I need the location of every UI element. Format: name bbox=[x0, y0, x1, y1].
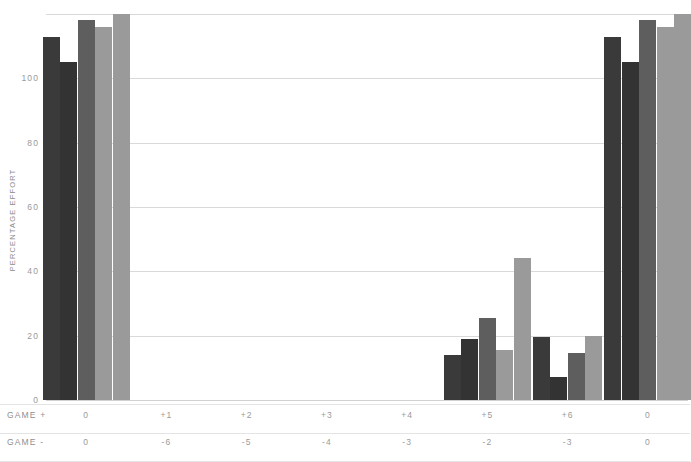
bar bbox=[113, 14, 130, 400]
x-axis-tick-label: 0 bbox=[83, 410, 89, 420]
bar-groups bbox=[46, 14, 688, 400]
y-axis-title: PERCENTAGE EFFORT bbox=[8, 10, 17, 150]
x-axis-tick-label: -3 bbox=[402, 437, 412, 447]
bar bbox=[479, 318, 496, 400]
x-axis-tick-label: +3 bbox=[321, 410, 333, 420]
bar bbox=[533, 337, 550, 400]
x-axis-row-label-game-minus: GAME - bbox=[7, 437, 44, 447]
bar bbox=[461, 339, 478, 400]
bar bbox=[550, 377, 567, 400]
bar-group bbox=[444, 14, 531, 400]
plot-area: 020406080100 bbox=[46, 14, 688, 400]
bar bbox=[444, 355, 461, 400]
x-axis-tick-label: -3 bbox=[563, 437, 573, 447]
x-axis-tick-label: +6 bbox=[562, 410, 574, 420]
x-axis-tick-label: +5 bbox=[481, 410, 493, 420]
bar bbox=[496, 350, 513, 400]
y-axis-tick-label: 80 bbox=[27, 138, 39, 148]
bar bbox=[568, 353, 585, 400]
x-axis-tick-label: 0 bbox=[83, 437, 89, 447]
bar-group bbox=[604, 14, 691, 400]
bar bbox=[585, 336, 602, 400]
bar bbox=[639, 20, 656, 400]
x-axis-divider-top bbox=[0, 404, 690, 405]
bar bbox=[43, 37, 60, 400]
x-axis-tick-label: +2 bbox=[241, 410, 253, 420]
x-axis-row-label-game-plus: GAME + bbox=[7, 410, 46, 420]
bar-group bbox=[533, 14, 603, 400]
bar bbox=[657, 27, 674, 400]
bar bbox=[622, 62, 639, 400]
bar bbox=[604, 37, 621, 400]
x-axis-tick-label: -2 bbox=[482, 437, 492, 447]
bar bbox=[60, 62, 77, 400]
bar bbox=[514, 258, 531, 400]
gridline-0: 0 bbox=[46, 400, 688, 401]
x-axis-tick-label: 0 bbox=[645, 410, 651, 420]
x-axis-tick-label: 0 bbox=[645, 437, 651, 447]
y-axis-tick-label: 20 bbox=[27, 331, 39, 341]
x-axis-tick-label: +4 bbox=[401, 410, 413, 420]
y-axis-tick-label: 60 bbox=[27, 202, 39, 212]
x-axis: GAME + 0+1+2+3+4+5+60 GAME - 0-6-5-4-3-2… bbox=[0, 404, 690, 462]
bar-group bbox=[43, 14, 130, 400]
bar bbox=[674, 14, 691, 400]
bar bbox=[78, 20, 95, 400]
x-axis-tick-label: -4 bbox=[322, 437, 332, 447]
bar bbox=[95, 27, 112, 400]
y-axis-tick-label: 40 bbox=[27, 266, 39, 276]
x-axis-tick-label: -5 bbox=[242, 437, 252, 447]
y-axis-tick-label: 100 bbox=[22, 73, 39, 83]
x-axis-row-game-plus: GAME + 0+1+2+3+4+5+60 bbox=[0, 410, 690, 437]
y-axis-title-text: PERCENTAGE EFFORT bbox=[8, 150, 17, 290]
x-axis-tick-label: -6 bbox=[161, 437, 171, 447]
x-axis-row-game-minus: GAME - 0-6-5-4-3-2-30 bbox=[0, 437, 690, 462]
x-axis-tick-label: +1 bbox=[160, 410, 172, 420]
